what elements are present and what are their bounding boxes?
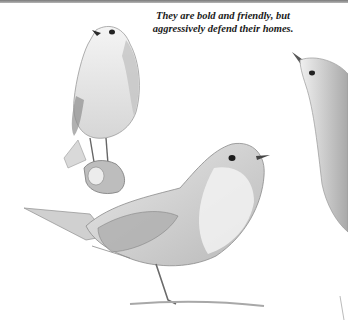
robin-partial xyxy=(292,52,348,320)
robin-sketch-artwork xyxy=(0,0,348,329)
illustration-page: They are bold and friendly, but aggressi… xyxy=(0,0,348,329)
robin-standing xyxy=(24,143,270,306)
robin-perched xyxy=(64,26,139,193)
